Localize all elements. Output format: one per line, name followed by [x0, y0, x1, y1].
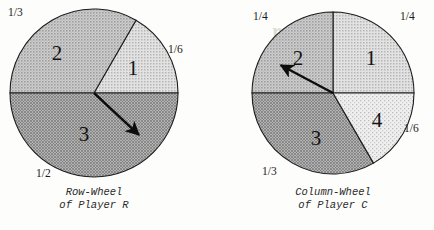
row-wheel-fraction-label: 1/2 — [36, 167, 51, 179]
column-wheel-sector-number-4: 4 — [372, 108, 383, 132]
row-wheel-sector-number-3: 3 — [79, 122, 90, 146]
row-wheel-sector-number-1: 1 — [128, 56, 139, 80]
column-wheel-fraction-label: 1/4 — [400, 10, 415, 22]
column-wheel-sector-number-3: 3 — [311, 126, 322, 150]
row-wheel-sector-3 — [10, 93, 178, 177]
caption-row-wheel-line2: of Player R — [44, 199, 144, 212]
caption-row-wheel: Row-Wheel of Player R — [44, 186, 144, 212]
column-wheel-fraction-label: 1/6 — [404, 122, 419, 134]
column-wheel-sector-number-1: 1 — [366, 46, 377, 70]
figure-canvas: rategy) Ga — [0, 0, 434, 230]
caption-row-wheel-line1: Row-Wheel — [44, 186, 144, 199]
caption-column-wheel: Column-Wheel of Player C — [276, 186, 390, 212]
caption-column-wheel-line2: of Player C — [276, 199, 390, 212]
row-wheel-fraction-label: 1/3 — [8, 6, 23, 18]
row-wheel-fraction-label: 1/6 — [168, 43, 183, 55]
row-wheel-sector-number-2: 2 — [52, 41, 63, 65]
column-wheel-sector-number-2: 2 — [293, 46, 304, 70]
column-wheel-fraction-label: 1/3 — [262, 165, 277, 177]
column-wheel-fraction-label: 1/4 — [253, 10, 268, 22]
caption-column-wheel-line1: Column-Wheel — [276, 186, 390, 199]
